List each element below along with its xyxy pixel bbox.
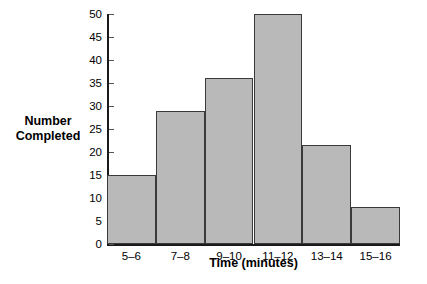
y-tick-label: 35 xyxy=(89,77,102,89)
bar xyxy=(302,145,351,244)
histogram-figure: Number Completed 05101520253035404550 5–… xyxy=(0,0,427,284)
y-tick-label: 25 xyxy=(89,123,102,135)
y-tick xyxy=(109,37,114,38)
y-tick xyxy=(109,83,114,84)
y-tick-label: 20 xyxy=(89,146,102,158)
y-tick-label: 5 xyxy=(96,215,102,227)
x-axis-title: Time (minutes) xyxy=(107,256,400,270)
y-tick xyxy=(109,244,114,245)
y-tick xyxy=(109,106,114,107)
bar xyxy=(205,78,254,244)
plot-area: 05101520253035404550 5–67–89–1011–1213–1… xyxy=(107,14,400,244)
y-tick-label: 30 xyxy=(89,100,102,112)
y-tick xyxy=(109,152,114,153)
y-tick-label: 50 xyxy=(89,8,102,20)
bar xyxy=(156,111,205,244)
y-tick xyxy=(109,60,114,61)
bar xyxy=(254,14,303,244)
y-tick-label: 0 xyxy=(96,238,102,250)
y-axis-title: Number Completed xyxy=(0,114,96,144)
bar xyxy=(107,175,156,244)
x-axis-spine xyxy=(107,244,400,246)
y-tick xyxy=(109,129,114,130)
y-tick-label: 15 xyxy=(89,169,102,181)
y-tick-label: 40 xyxy=(89,54,102,66)
y-tick-label: 10 xyxy=(89,192,102,204)
y-tick-label: 45 xyxy=(89,31,102,43)
bar xyxy=(351,207,400,244)
y-tick xyxy=(109,14,114,15)
